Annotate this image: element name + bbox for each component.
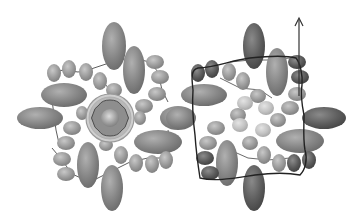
central-ring <box>86 94 134 142</box>
bead-domains <box>199 63 306 172</box>
right-assembly <box>166 18 346 211</box>
molecular-assembly-figure <box>0 0 358 223</box>
bead-domains-dark <box>191 55 316 180</box>
